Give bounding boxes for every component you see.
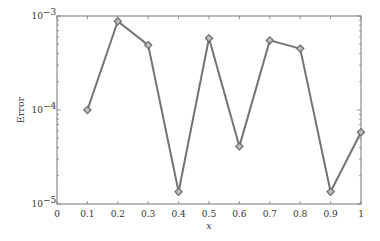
diamond-marker bbox=[297, 45, 304, 52]
x-tick-label: 0.5 bbox=[202, 209, 217, 219]
y-axis-label: Error bbox=[15, 96, 26, 123]
x-tick-label: 0.9 bbox=[323, 209, 338, 219]
diamond-marker bbox=[357, 129, 364, 136]
x-axis-label: x bbox=[206, 220, 212, 231]
y-tick-label: 10 bbox=[32, 105, 44, 115]
error-series-line bbox=[87, 21, 361, 192]
diamond-marker bbox=[175, 188, 182, 195]
y-tick-exponent: −5 bbox=[43, 195, 57, 205]
x-axis-ticks: 00.10.20.30.40.50.60.70.80.91 bbox=[54, 16, 364, 219]
y-axis-ticks: 10−310−410−5 bbox=[32, 7, 361, 209]
error-series-markers bbox=[84, 18, 365, 196]
x-tick-label: 0.1 bbox=[80, 209, 94, 219]
y-tick-label: 10 bbox=[32, 199, 44, 209]
y-tick-exponent: −3 bbox=[43, 7, 57, 17]
diamond-marker bbox=[205, 35, 212, 42]
error-chart: 00.10.20.30.40.50.60.70.80.91 10−310−410… bbox=[0, 0, 380, 241]
y-tick-label: 10 bbox=[32, 11, 44, 21]
diamond-marker bbox=[84, 106, 91, 113]
diamond-marker bbox=[236, 143, 243, 150]
x-tick-label: 0.7 bbox=[263, 209, 278, 219]
x-tick-label: 1 bbox=[358, 209, 364, 219]
x-tick-label: 0.6 bbox=[232, 209, 247, 219]
diamond-marker bbox=[327, 188, 334, 195]
plot-frame bbox=[57, 16, 361, 204]
diamond-marker bbox=[266, 37, 273, 44]
y-tick-exponent: −4 bbox=[43, 101, 57, 111]
x-tick-label: 0.8 bbox=[293, 209, 308, 219]
x-tick-label: 0.4 bbox=[171, 209, 186, 219]
x-tick-label: 0.2 bbox=[111, 209, 125, 219]
x-tick-label: 0.3 bbox=[141, 209, 156, 219]
x-tick-label: 0 bbox=[54, 209, 60, 219]
